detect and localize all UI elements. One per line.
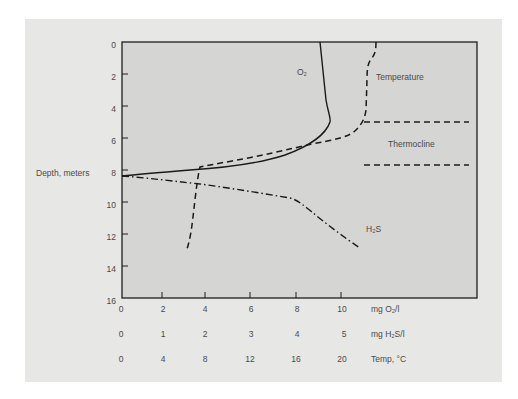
y-tick-label: 6: [111, 136, 116, 146]
o2-tick-label: 10: [337, 304, 347, 314]
o2-tick-label: 8: [295, 304, 300, 314]
h2s-tick-label: 0: [119, 329, 124, 339]
temp-tick-label: 16: [291, 354, 301, 364]
y-tick-label: 8: [111, 168, 116, 178]
o2-label: O₂: [297, 67, 307, 77]
o2-tick-label: 6: [249, 304, 254, 314]
y-tick-label: 14: [107, 264, 117, 274]
plot-area: [122, 42, 477, 298]
h2s-tick-label: 5: [342, 329, 347, 339]
o2-tick-label: 4: [203, 304, 208, 314]
h2s-axis-title: mg H₂S/l: [371, 329, 405, 339]
y-tick-label: 16: [107, 296, 117, 306]
temp-tick-label: 0: [119, 354, 124, 364]
depth-profile-chart: 0 2 4 6 8 10 12 14 16 Depth, meters 0 2 …: [0, 0, 518, 399]
o2-tick-label: 0: [119, 304, 124, 314]
h2s-axis-labels: 0 1 2 3 4 5: [119, 329, 347, 339]
temp-axis-labels: 0 4 8 12 16 20: [119, 354, 347, 364]
y-tick-label: 12: [107, 232, 117, 242]
o2-tick-label: 2: [161, 304, 166, 314]
y-tick-label: 2: [111, 72, 116, 82]
temp-tick-label: 12: [245, 354, 255, 364]
h2s-label: H₂S: [366, 224, 381, 234]
y-tick-label: 4: [111, 104, 116, 114]
h2s-tick-label: 1: [161, 329, 166, 339]
o2-axis-title: mg O₂/l: [371, 304, 399, 314]
temp-axis-title: Temp, °C: [371, 354, 406, 364]
temp-tick-label: 8: [203, 354, 208, 364]
y-tick-labels: 0 2 4 6 8 10 12 14 16: [107, 40, 117, 306]
thermocline-label: Thermocline: [388, 139, 435, 149]
temperature-label: Temperature: [376, 72, 424, 82]
y-axis-label: Depth, meters: [36, 168, 89, 178]
y-tick-label: 10: [107, 200, 117, 210]
h2s-tick-label: 4: [295, 329, 300, 339]
h2s-tick-label: 3: [249, 329, 254, 339]
temp-tick-label: 4: [161, 354, 166, 364]
temp-tick-label: 20: [337, 354, 347, 364]
y-tick-label: 0: [111, 40, 116, 50]
o2-axis-labels: 0 2 4 6 8 10: [119, 304, 347, 314]
h2s-tick-label: 2: [203, 329, 208, 339]
